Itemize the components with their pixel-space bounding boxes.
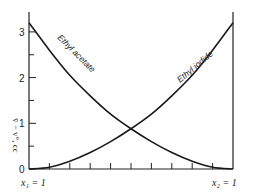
curve-label-ethyl-iodide: Ethyl iodide (175, 48, 215, 84)
y-tick-label: 2 (19, 73, 25, 84)
curve-ethyl-acetate (29, 23, 233, 169)
curve-label-ethyl-acetate: Ethyl acetate (56, 32, 98, 74)
curves (29, 23, 233, 169)
x-ticks (49, 163, 212, 169)
x-left-end-label: x₁ = 1 (20, 177, 46, 188)
y-ticks: 0123 (19, 27, 36, 175)
x-right-end-label: x₂ = 1 (211, 177, 237, 188)
chart: 0123 v̄ − v°, cc x₁ = 1 x₂ = 1 Ethyl ace… (0, 0, 259, 192)
y-axis-label: v̄ − v°, cc (11, 118, 21, 153)
y-tick-label: 0 (19, 164, 25, 175)
y-tick-label: 3 (19, 27, 25, 38)
curve-ethyl-iodide (29, 23, 233, 169)
